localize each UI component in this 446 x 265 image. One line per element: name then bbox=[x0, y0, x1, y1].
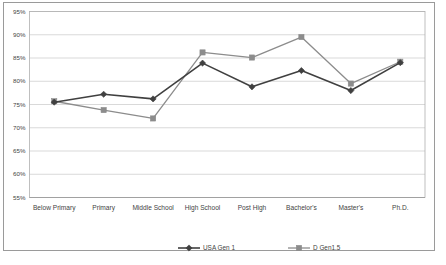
x-axis-tick-label: Middle School bbox=[132, 204, 174, 211]
chart-legend: USA Gen 1D Gen1.5 bbox=[178, 244, 341, 251]
y-axis-tick-label: 95% bbox=[13, 8, 26, 15]
x-axis-tick-label: Below Primary bbox=[33, 204, 76, 212]
data-point-marker bbox=[296, 245, 301, 250]
y-axis-tick-label: 90% bbox=[13, 31, 26, 38]
x-axis-tick-label: Master's bbox=[338, 204, 363, 211]
legend-label: USA Gen 1 bbox=[203, 244, 235, 251]
data-point-marker bbox=[299, 34, 304, 39]
x-axis-tick-label: Primary bbox=[92, 204, 115, 212]
y-axis-tick-label: 75% bbox=[13, 101, 26, 108]
data-point-marker bbox=[150, 116, 155, 121]
x-axis-tick-label: Bachelor's bbox=[286, 204, 317, 211]
chart-container: 95%90%85%80%75%70%65%60%55%Below Primary… bbox=[0, 0, 446, 265]
x-axis-tick-label: Ph.D. bbox=[392, 204, 409, 211]
x-axis-tick-label: High School bbox=[185, 204, 221, 212]
data-point-marker bbox=[249, 84, 255, 90]
legend-label: D Gen1.5 bbox=[313, 244, 341, 251]
y-axis-tick-label: 60% bbox=[13, 170, 26, 177]
data-series bbox=[52, 34, 403, 121]
y-axis-tick-label: 65% bbox=[13, 147, 26, 154]
y-axis-tick-label: 85% bbox=[13, 54, 26, 61]
data-point-marker bbox=[200, 50, 205, 55]
line-chart-plot: 95%90%85%80%75%70%65%60%55%Below Primary… bbox=[0, 0, 446, 265]
data-point-marker bbox=[348, 81, 353, 86]
data-point-marker bbox=[249, 55, 254, 60]
data-point-marker bbox=[298, 67, 304, 73]
y-axis-tick-label: 55% bbox=[13, 194, 26, 201]
data-point-marker bbox=[101, 107, 106, 112]
x-axis-tick-label: Post High bbox=[238, 204, 267, 212]
data-point-marker bbox=[348, 87, 354, 93]
data-point-marker bbox=[186, 245, 192, 251]
data-point-marker bbox=[101, 91, 107, 97]
y-axis-tick-label: 70% bbox=[13, 124, 26, 131]
series-line bbox=[54, 37, 400, 118]
y-axis-tick-label: 80% bbox=[13, 77, 26, 84]
